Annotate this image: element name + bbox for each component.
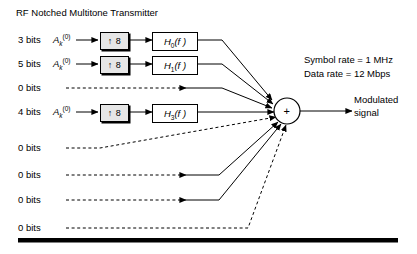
filter-base-4: H	[164, 108, 171, 119]
upsampler-box-row-2[interactable]: ↑ 8	[100, 56, 129, 74]
summing-node-operator: +	[284, 105, 290, 117]
input-symbol-sub-2: k	[59, 64, 62, 71]
bits-label-row-1: 3 bits	[18, 35, 41, 45]
path-filter1-to-summer	[196, 40, 272, 100]
output-label-line-2: signal	[354, 108, 379, 118]
upsampler-box-row-1[interactable]: ↑ 8	[100, 32, 129, 50]
filter-arg-4: (f )	[174, 108, 186, 119]
bits-label-row-8: 0 bits	[18, 223, 41, 233]
path-filter2-to-summer	[196, 64, 273, 104]
input-symbol-row-2: Ak(0)	[53, 59, 71, 69]
input-symbol-sup-4: (0)	[63, 105, 71, 112]
bits-label-row-7: 0 bits	[18, 195, 41, 205]
bits-label-row-2: 5 bits	[18, 59, 41, 69]
filter-arg-2: (f )	[174, 60, 186, 71]
data-rate-label: Data rate = 12 Mbps	[304, 69, 390, 79]
input-symbol-sub-1: k	[59, 40, 62, 47]
input-symbol-row-4: Ak(0)	[53, 107, 71, 117]
symbol-rate-label: Symbol rate = 1 MHz	[304, 55, 393, 65]
upsampler-box-row-4[interactable]: ↑ 8	[100, 104, 129, 122]
filter-box-row-4[interactable]: H3(f )	[152, 104, 198, 123]
path-zero3-to-summer	[186, 88, 272, 108]
filter-base-1: H	[164, 36, 171, 47]
bottom-rule	[18, 238, 398, 243]
filter-arg-1: (f )	[174, 36, 186, 47]
input-symbol-sup-1: (0)	[63, 33, 71, 40]
page-title: RF Notched Multitone Transmitter	[16, 8, 158, 18]
filter-base-2: H	[164, 60, 171, 71]
bits-label-row-3: 0 bits	[18, 83, 41, 93]
bits-label-row-5: 0 bits	[18, 143, 41, 153]
path-zero8-to-summer	[66, 125, 286, 228]
figure-canvas: RF Notched Multitone Transmitter 3 bits …	[0, 0, 417, 254]
filter-box-row-1[interactable]: H0(f )	[152, 32, 198, 51]
bits-label-row-4: 4 bits	[18, 107, 41, 117]
input-symbol-sub-4: k	[59, 112, 62, 119]
input-symbol-row-1: Ak(0)	[53, 35, 71, 45]
output-label-line-1: Modulated	[354, 95, 398, 105]
filter-box-row-2[interactable]: H1(f )	[152, 56, 198, 75]
bits-label-row-6: 0 bits	[18, 170, 41, 180]
input-symbol-sup-2: (0)	[63, 57, 71, 64]
